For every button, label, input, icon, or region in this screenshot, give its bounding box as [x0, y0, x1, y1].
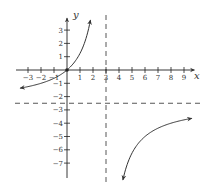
rational-function-graph: −3−2−1123456789321−1−2−3−4−5−6−7 x y	[0, 0, 208, 189]
origin-point	[65, 68, 69, 72]
x-tick-label: 9	[182, 74, 186, 82]
x-tick-label: 4	[117, 74, 122, 82]
right-branch-curve	[123, 118, 192, 180]
axis-ticks: −3−2−1123456789321−1−2−3−4−5−6−7	[23, 27, 186, 168]
y-tick-label: −7	[53, 160, 63, 168]
axes	[16, 18, 194, 178]
x-axis-label: x	[194, 70, 200, 81]
asymptotes	[15, 15, 200, 185]
x-tick-label: −2	[36, 74, 46, 82]
x-tick-label: 3	[104, 74, 108, 82]
x-tick-label: −3	[23, 74, 33, 82]
y-tick-label: 3	[59, 27, 63, 35]
y-tick-label: −3	[53, 106, 63, 114]
x-tick-label: 6	[143, 74, 148, 82]
x-tick-label: 2	[91, 74, 95, 82]
y-tick-label: 1	[59, 53, 63, 61]
y-tick-label: 2	[59, 40, 63, 48]
y-tick-label: −2	[53, 93, 63, 101]
x-tick-label: 8	[169, 74, 173, 82]
y-axis-label: y	[72, 9, 79, 20]
y-tick-label: −6	[53, 146, 64, 154]
x-tick-label: 7	[156, 74, 160, 82]
y-tick-label: −5	[53, 133, 63, 141]
y-tick-label: −4	[53, 120, 64, 128]
x-tick-label: 5	[130, 74, 134, 82]
y-tick-label: −1	[53, 80, 63, 88]
x-tick-label: 1	[78, 74, 82, 82]
